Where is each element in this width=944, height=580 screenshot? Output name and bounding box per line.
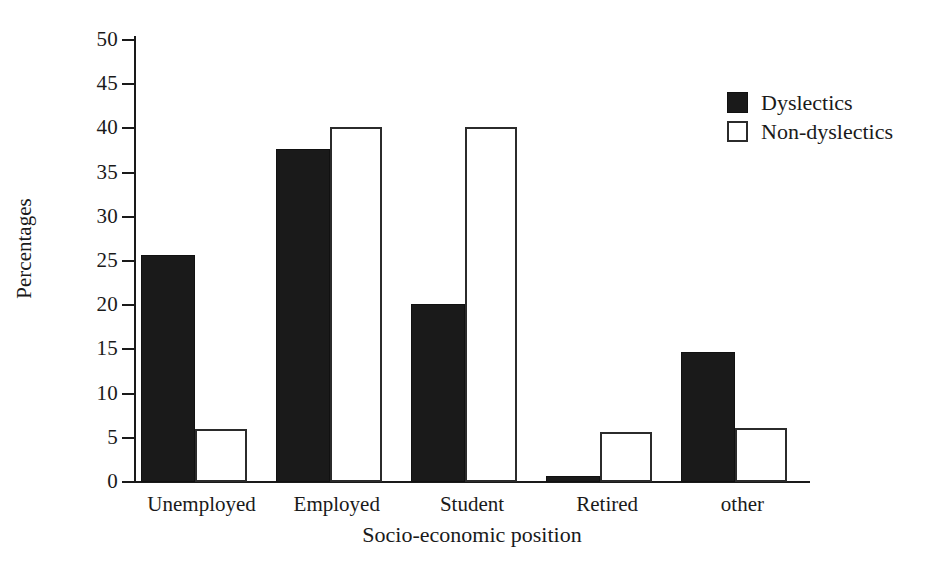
y-axis-tick-label-wrap: 10: [60, 383, 118, 404]
bar-other-dyslectics: [681, 352, 735, 482]
y-axis-tick-label: 25: [82, 250, 118, 271]
bar-employed-non-dyslectics: [330, 127, 382, 482]
x-axis-label-employed: Employed: [269, 492, 404, 516]
chart-legend: Dyslectics Non-dyslectics: [727, 88, 893, 146]
bar-retired-non-dyslectics: [600, 432, 652, 482]
legend-label-non-dyslectics: Non-dyslectics: [761, 121, 893, 143]
y-axis-tick-label-wrap: 45: [60, 73, 118, 94]
legend-swatch-filled-square-icon: [727, 92, 748, 113]
y-axis-tick-label: 10: [82, 383, 118, 404]
bar-employed-dyslectics: [276, 149, 330, 482]
x-axis-label-other: other: [675, 492, 810, 516]
y-axis-tick-label: 5: [82, 427, 118, 448]
x-axis-label-unemployed: Unemployed: [134, 492, 269, 516]
x-axis-label-retired: Retired: [540, 492, 675, 516]
x-axis-title: Socio-economic position: [134, 522, 810, 548]
legend-swatch-open-square-icon: [727, 121, 748, 142]
plot-area: [134, 40, 810, 482]
legend-label-dyslectics: Dyslectics: [761, 92, 853, 114]
y-axis-tick-label: 45: [82, 73, 118, 94]
y-axis-tick-label: 0: [82, 471, 118, 492]
bar-student-dyslectics: [411, 304, 465, 482]
bar-student-non-dyslectics: [465, 127, 517, 482]
y-axis-tick-label: 40: [82, 117, 118, 138]
bar-chart-figure: 05101520253035404550 Percentages Unemplo…: [0, 0, 944, 580]
bar-unemployed-dyslectics: [141, 255, 195, 482]
y-axis-tick-label: 35: [82, 162, 118, 183]
y-axis-tick-label-wrap: 15: [60, 338, 118, 359]
y-axis-tick-label-wrap: 25: [60, 250, 118, 271]
y-axis-tick-label: 50: [82, 29, 118, 50]
y-axis-tick-label-wrap: 5: [60, 427, 118, 448]
legend-entry-non-dyslectics: Non-dyslectics: [727, 117, 893, 146]
y-axis-title: Percentages: [14, 159, 35, 339]
y-axis-tick-label-wrap: 0: [60, 471, 118, 492]
bar-unemployed-non-dyslectics: [195, 429, 247, 482]
y-axis-tick-label-wrap: 30: [60, 206, 118, 227]
y-axis-tick-label-wrap: 40: [60, 117, 118, 138]
y-axis-tick-label-wrap: 35: [60, 162, 118, 183]
legend-entry-dyslectics: Dyslectics: [727, 88, 893, 117]
y-axis-tick-label: 20: [82, 294, 118, 315]
y-axis-tick-label-wrap: 50: [60, 29, 118, 50]
bar-other-non-dyslectics: [735, 428, 787, 482]
y-axis-tick-label: 30: [82, 206, 118, 227]
bar-retired-dyslectics: [546, 476, 600, 482]
x-axis-label-student: Student: [404, 492, 539, 516]
y-axis-tick-label-wrap: 20: [60, 294, 118, 315]
y-axis-tick-label: 15: [82, 338, 118, 359]
